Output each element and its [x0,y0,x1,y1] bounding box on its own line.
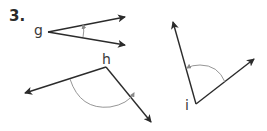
angle-g [48,17,125,45]
angle-i [173,22,254,104]
label-i: i [185,98,189,112]
label-g: g [34,23,43,37]
angle-h [25,67,151,122]
angles-figure [0,0,267,131]
label-h: h [102,52,111,66]
angle-diagram: 3. g h i [0,0,267,131]
